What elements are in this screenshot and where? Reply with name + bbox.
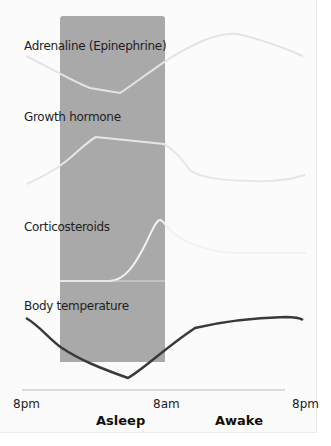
growth-hormone-curve	[27, 137, 305, 184]
x-tick-8am: 8am	[153, 397, 180, 411]
label-adrenaline: Adrenaline (Epinephrine)	[24, 39, 166, 53]
label-corticosteroids: Corticosteroids	[24, 220, 110, 234]
phase-asleep-label: Asleep	[96, 413, 145, 428]
x-tick-8pm-start: 8pm	[13, 397, 40, 411]
phase-awake-label: Awake	[215, 413, 263, 428]
label-body-temperature: Body temperature	[24, 299, 129, 313]
body-temperature-curve	[26, 317, 303, 378]
label-growth-hormone: Growth hormone	[24, 110, 121, 124]
x-tick-8pm-end: 8pm	[292, 397, 319, 411]
